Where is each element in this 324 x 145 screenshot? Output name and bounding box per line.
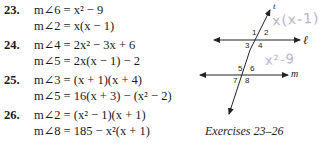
- equation: m∠2 = (x² − 1)(x + 1): [34, 108, 146, 123]
- equation: m∠8 = 185 − x²(x + 1): [34, 124, 150, 139]
- equation: m∠5 = 2x(x − 1) − 2: [34, 54, 140, 69]
- angle-7-label: 7: [233, 76, 237, 85]
- angle-3-label: 3: [245, 41, 249, 50]
- line-l-label: ℓ: [303, 33, 308, 48]
- equation: m∠2 = x(x − 1): [34, 19, 114, 34]
- handwritten-note-angle-2: x(x-1): [271, 9, 319, 28]
- equation: m∠4 = 2x² − 3x + 6: [34, 38, 135, 53]
- exercise-number: 24.: [4, 38, 20, 53]
- angle-4-label: 4: [258, 41, 262, 50]
- exercise-number: 23.: [4, 3, 20, 18]
- angle-8-label: 8: [245, 76, 249, 85]
- exercise-number: 25.: [4, 73, 20, 88]
- equation: m∠5 = 16(x + 3) − (x² − 2): [34, 89, 172, 104]
- angle-5-label: 5: [238, 64, 242, 73]
- handwritten-note-angle-6: x²-9: [265, 51, 296, 68]
- exercise-number: 26.: [4, 108, 20, 123]
- equation: m∠6 = x² − 9: [34, 3, 103, 18]
- line-m-label: m: [291, 68, 298, 79]
- angle-1-label: 1: [252, 28, 256, 37]
- angle-6-label: 6: [250, 64, 254, 73]
- transversal-label: t: [273, 1, 276, 11]
- angle-2-label: 2: [264, 28, 268, 37]
- figure-caption: Exercises 23–26: [205, 124, 284, 139]
- equation: m∠3 = (x + 1)(x + 4): [34, 73, 142, 88]
